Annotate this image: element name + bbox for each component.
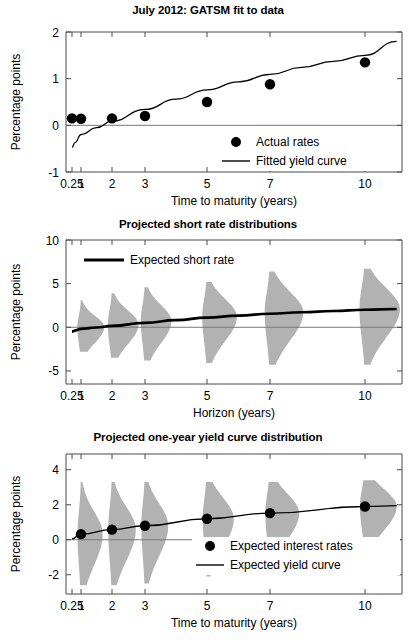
x-tick-label: 3	[142, 389, 149, 403]
x-tick-label: 2	[109, 599, 116, 613]
legend: Expected interest ratesExpected yield cu…	[192, 537, 400, 575]
plot-mid: -505100.251235710Horizon (years)Percenta…	[0, 214, 416, 429]
plot-top: -10120.251235710Time to maturity (years)…	[0, 0, 416, 215]
x-tick-label: 1	[78, 599, 85, 613]
x-tick-label: 2	[109, 177, 116, 191]
y-axis-title: Percentage points	[9, 264, 23, 361]
x-tick-label: 10	[358, 389, 372, 403]
y-axis-title: Percentage points	[9, 54, 23, 151]
legend-label: Actual rates	[256, 135, 319, 149]
x-tick-label: 7	[267, 599, 274, 613]
data-point	[67, 113, 77, 123]
y-axis-title: Percentage points	[9, 476, 23, 573]
panel-yield-curve-dist: Projected one-year yield curve distribut…	[0, 428, 416, 643]
x-tick-label: 5	[204, 389, 211, 403]
distribution-shape	[265, 271, 304, 364]
y-tick-label: -5	[48, 364, 59, 378]
x-tick-label: 10	[358, 177, 372, 191]
x-tick-label: 1	[78, 177, 85, 191]
x-tick-label: 2	[109, 389, 116, 403]
panel-gatsm-fit: July 2012: GATSM fit to data -10120.2512…	[0, 0, 416, 214]
y-tick-label: 5	[52, 277, 59, 291]
distribution-shape	[202, 282, 237, 363]
x-tick-label: 5	[204, 177, 211, 191]
x-tick-label: 7	[267, 389, 274, 403]
legend-label: Fitted yield curve	[256, 154, 347, 168]
x-axis-title: Time to maturity (years)	[171, 194, 297, 208]
panel-short-rate-dist: Projected short rate distributions -5051…	[0, 214, 416, 428]
legend-label: Expected yield curve	[230, 558, 341, 572]
x-tick-label: 3	[142, 599, 149, 613]
data-point	[265, 79, 275, 89]
y-tick-label: 4	[52, 463, 59, 477]
y-tick-label: -2	[48, 568, 59, 582]
data-point	[76, 114, 86, 124]
x-tick-label: 1	[78, 389, 85, 403]
x-tick-label: 3	[142, 177, 149, 191]
legend: Expected short rate	[80, 251, 256, 271]
y-tick-label: 0	[52, 321, 59, 335]
y-tick-label: 2	[52, 498, 59, 512]
x-axis-title: Time to maturity (years)	[171, 616, 297, 630]
x-tick-label: 5	[204, 599, 211, 613]
legend: Actual ratesFitted yield curve	[218, 133, 400, 171]
x-tick-label: 7	[267, 177, 274, 191]
x-axis-title: Horizon (years)	[193, 406, 275, 420]
series-line	[72, 41, 397, 147]
data-point	[140, 111, 150, 121]
y-tick-label: 0	[52, 119, 59, 133]
legend-label: Expected interest rates	[230, 539, 353, 553]
figure-root: July 2012: GATSM fit to data -10120.2512…	[0, 0, 416, 643]
y-tick-label: 1	[52, 72, 59, 86]
y-tick-label: -1	[48, 166, 59, 180]
y-tick-label: 10	[46, 234, 60, 248]
distribution-shape	[141, 482, 168, 584]
legend-marker-dot	[205, 541, 215, 551]
data-point	[202, 97, 212, 107]
legend-label: Expected short rate	[130, 253, 234, 267]
legend-marker-dot	[231, 137, 241, 147]
plot-bot: -20240.251235710Time to maturity (years)…	[0, 428, 416, 643]
y-tick-label: 2	[52, 26, 59, 40]
x-tick-label: 10	[358, 599, 372, 613]
data-point	[360, 57, 370, 67]
y-tick-label: 0	[52, 533, 59, 547]
distribution-shape	[359, 269, 399, 365]
